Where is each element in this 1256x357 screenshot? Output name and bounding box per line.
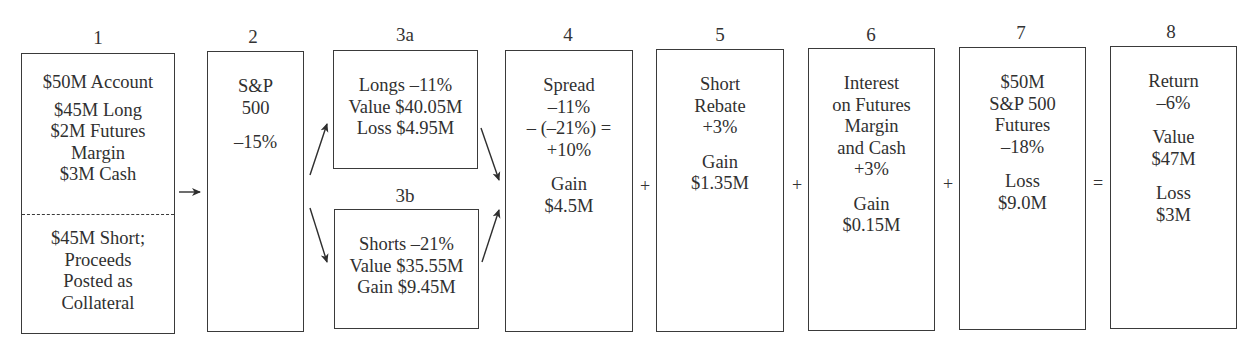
step-label-2: 2	[233, 27, 273, 47]
spread-label-text: Spread	[506, 75, 632, 97]
margin-text: Margin	[22, 143, 174, 165]
collateral-text: Collateral	[22, 293, 174, 315]
step-label-3a: 3a	[385, 25, 425, 45]
posted-as-text: Posted as	[22, 271, 174, 293]
plus-operator: +	[787, 175, 807, 195]
longs-value-text: Value $40.05M	[334, 97, 477, 119]
short-position-text: $45M Short;	[22, 228, 174, 250]
spread-short-return-text: – (–21%) =	[506, 118, 632, 140]
interest-gain-label-text: Gain	[809, 194, 934, 216]
longs-loss-text: Loss $4.95M	[334, 118, 477, 140]
index-number-text: 500	[208, 98, 303, 120]
interest-rate-text: +3%	[809, 159, 934, 181]
index-return-text: –15%	[208, 132, 303, 154]
step-label-8: 8	[1151, 22, 1191, 42]
equitized-long-short-diagram: 1 2 3a 3b 4 5 6 7 8 $50M Account $45M Lo…	[0, 0, 1256, 357]
final-value-label-text: Value	[1111, 127, 1236, 149]
total-return-label-text: Return	[1111, 71, 1236, 93]
step-3a-box: Longs –11% Value $40.05M Loss $4.95M	[333, 50, 478, 169]
shorts-gain-text: Gain $9.45M	[335, 277, 478, 299]
step-label-6: 6	[851, 25, 891, 45]
interest-label-text: Interest	[809, 73, 934, 95]
futures-index-text: S&P 500	[960, 94, 1085, 116]
futures-loss-label-text: Loss	[960, 171, 1085, 193]
total-loss-value-text: $3M	[1111, 205, 1236, 227]
futures-return-text: –18%	[960, 137, 1085, 159]
step-label-3b: 3b	[385, 186, 425, 206]
step-1-box: $50M Account $45M Long $2M Futures Margi…	[21, 53, 175, 334]
arrow-up-right-icon	[310, 124, 327, 175]
step-label-5: 5	[700, 25, 740, 45]
spread-gain-label-text: Gain	[506, 174, 632, 196]
futures-label-text: Futures	[960, 115, 1085, 137]
step-label-7: 7	[1001, 23, 1041, 43]
step-7-box: $50M S&P 500 Futures –18% Loss $9.0M	[959, 47, 1086, 330]
total-return-value-text: –6%	[1111, 93, 1236, 115]
step-4-box: Spread –11% – (–21%) = +10% Gain $4.5M	[505, 50, 633, 332]
longs-return-text: Longs –11%	[334, 75, 477, 97]
arrow-down-right-icon	[481, 128, 499, 180]
step-label-1: 1	[78, 28, 118, 48]
rebate-label-text: Rebate	[657, 96, 783, 118]
step-6-box: Interest on Futures Margin and Cash +3% …	[808, 48, 935, 331]
rebate-gain-value-text: $1.35M	[657, 173, 783, 195]
shorts-value-text: Value $35.55M	[335, 256, 478, 278]
shorts-return-text: Shorts –21%	[335, 234, 478, 256]
step-5-box: Short Rebate +3% Gain $1.35M	[656, 49, 784, 332]
proceeds-text: Proceeds	[22, 250, 174, 272]
plus-operator: +	[938, 174, 958, 194]
equals-operator: =	[1088, 173, 1108, 193]
futures-notional-text: $50M	[960, 72, 1085, 94]
step-label-4: 4	[548, 25, 588, 45]
arrow-up-right-icon	[482, 210, 499, 262]
futures-loss-value-text: $9.0M	[960, 193, 1085, 215]
long-position-text: $45M Long	[22, 100, 174, 122]
account-size-text: $50M Account	[22, 72, 174, 94]
margin-label-text: Margin	[809, 116, 934, 138]
on-futures-text: on Futures	[809, 95, 934, 117]
spread-gain-value-text: $4.5M	[506, 196, 632, 218]
short-label-text: Short	[657, 74, 783, 96]
interest-gain-value-text: $0.15M	[809, 215, 934, 237]
total-loss-label-text: Loss	[1111, 183, 1236, 205]
and-cash-text: and Cash	[809, 138, 934, 160]
step-3b-box: Shorts –21% Value $35.55M Gain $9.45M	[334, 209, 479, 329]
step-2-box: S&P 500 –15%	[207, 51, 304, 332]
plus-operator: +	[635, 176, 655, 196]
index-name-text: S&P	[208, 76, 303, 98]
spread-result-text: +10%	[506, 140, 632, 162]
futures-margin-text: $2M Futures	[22, 121, 174, 143]
step-8-box: Return –6% Value $47M Loss $3M	[1110, 46, 1237, 329]
dashed-divider	[22, 214, 174, 215]
rebate-gain-label-text: Gain	[657, 152, 783, 174]
final-value-text: $47M	[1111, 149, 1236, 171]
arrow-down-right-icon	[310, 208, 327, 262]
spread-long-return-text: –11%	[506, 97, 632, 119]
cash-text: $3M Cash	[22, 164, 174, 186]
rebate-rate-text: +3%	[657, 117, 783, 139]
